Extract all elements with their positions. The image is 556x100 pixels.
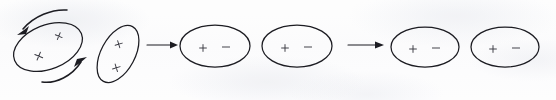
ellipse-1-mark-cross-a xyxy=(35,52,43,60)
transition-arrow-2 xyxy=(348,42,384,49)
ellipse-2-mark-cross-a xyxy=(115,41,122,48)
ellipse-1 xyxy=(6,13,89,81)
ellipse-6 xyxy=(471,27,539,67)
figure-root: Dipole alignment sequence xyxy=(0,0,556,100)
stage-fully-aligned xyxy=(391,27,539,67)
ellipse-2 xyxy=(88,19,147,90)
ellipse-1-mark-cross-b xyxy=(55,33,62,40)
ellipse-5-mark-plus xyxy=(410,46,417,53)
ellipse-4 xyxy=(262,25,332,67)
ellipse-5 xyxy=(391,27,459,67)
stage-partially-aligned xyxy=(180,25,332,67)
ellipse-2-mark-cross-b xyxy=(113,64,121,72)
stage-randomly-oriented xyxy=(6,10,147,89)
ellipse-4-mark-plus xyxy=(282,45,289,52)
ellipse-3 xyxy=(180,25,250,67)
ellipse-3-mark-plus xyxy=(200,45,207,52)
transition-arrow-1 xyxy=(147,42,178,49)
diagram-canvas xyxy=(0,0,556,100)
ellipse-6-mark-plus xyxy=(490,46,497,53)
